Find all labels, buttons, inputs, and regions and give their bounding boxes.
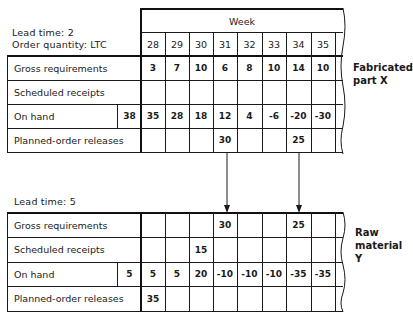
cell: 30 <box>213 213 237 237</box>
cell: 25 <box>286 213 311 237</box>
cell: -10 <box>237 262 262 286</box>
cell: 15 <box>189 237 213 262</box>
row-label-planned-order-releases: Planned-order releases <box>14 286 124 311</box>
cell: 35 <box>141 286 165 311</box>
bottom-wavy-break-edge <box>336 210 350 314</box>
cell: 5 <box>165 262 189 286</box>
row-label-scheduled-receipts: Scheduled receipts <box>14 237 105 262</box>
cell: -10 <box>262 262 286 286</box>
row-label-gross-requirements: Gross requirements <box>14 213 107 237</box>
bottom-row-line <box>7 311 343 312</box>
bottom-lead-time-label: Lead time: 5 <box>14 196 76 207</box>
cell: -10 <box>213 262 237 286</box>
cell: 5 <box>141 262 165 286</box>
arrow-icon <box>224 152 230 213</box>
raw-material-label: Raw material Y <box>355 226 409 265</box>
cell: -35 <box>286 262 311 286</box>
arrow-icon <box>296 152 302 213</box>
row-label-on-hand: On hand <box>14 262 54 286</box>
cell: 20 <box>189 262 213 286</box>
bottom-left-border <box>7 212 8 312</box>
on-hand-initial: 5 <box>118 262 141 286</box>
cell: -35 <box>311 262 335 286</box>
